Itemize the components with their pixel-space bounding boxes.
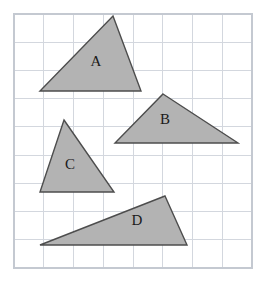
triangle-a-label: A	[91, 53, 102, 69]
figure-root: ABCD	[0, 0, 267, 283]
triangle-b-label: B	[160, 111, 170, 127]
triangle-c-label: C	[65, 156, 75, 172]
grid-triangles-svg: ABCD	[0, 0, 267, 283]
triangle-d-label: D	[132, 212, 143, 228]
